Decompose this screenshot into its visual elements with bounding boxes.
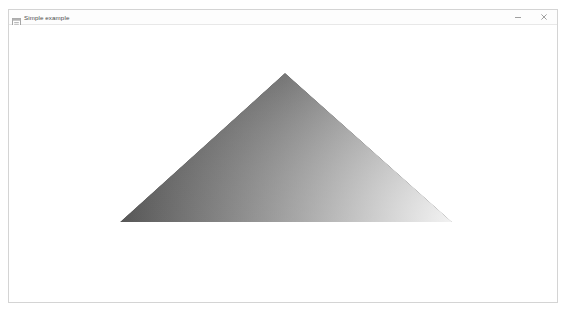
title-bar[interactable]: Simple example [9,10,557,25]
minimize-button[interactable] [505,10,531,24]
window-title: Simple example [24,13,69,22]
gouraud-triangle [9,25,557,302]
opengl-render-canvas[interactable] [9,25,557,302]
close-button[interactable] [531,10,557,24]
application-window: Simple example [8,9,558,303]
close-icon [539,12,549,22]
app-window-icon [12,13,21,22]
window-controls [505,10,557,24]
minimize-icon [513,12,523,22]
